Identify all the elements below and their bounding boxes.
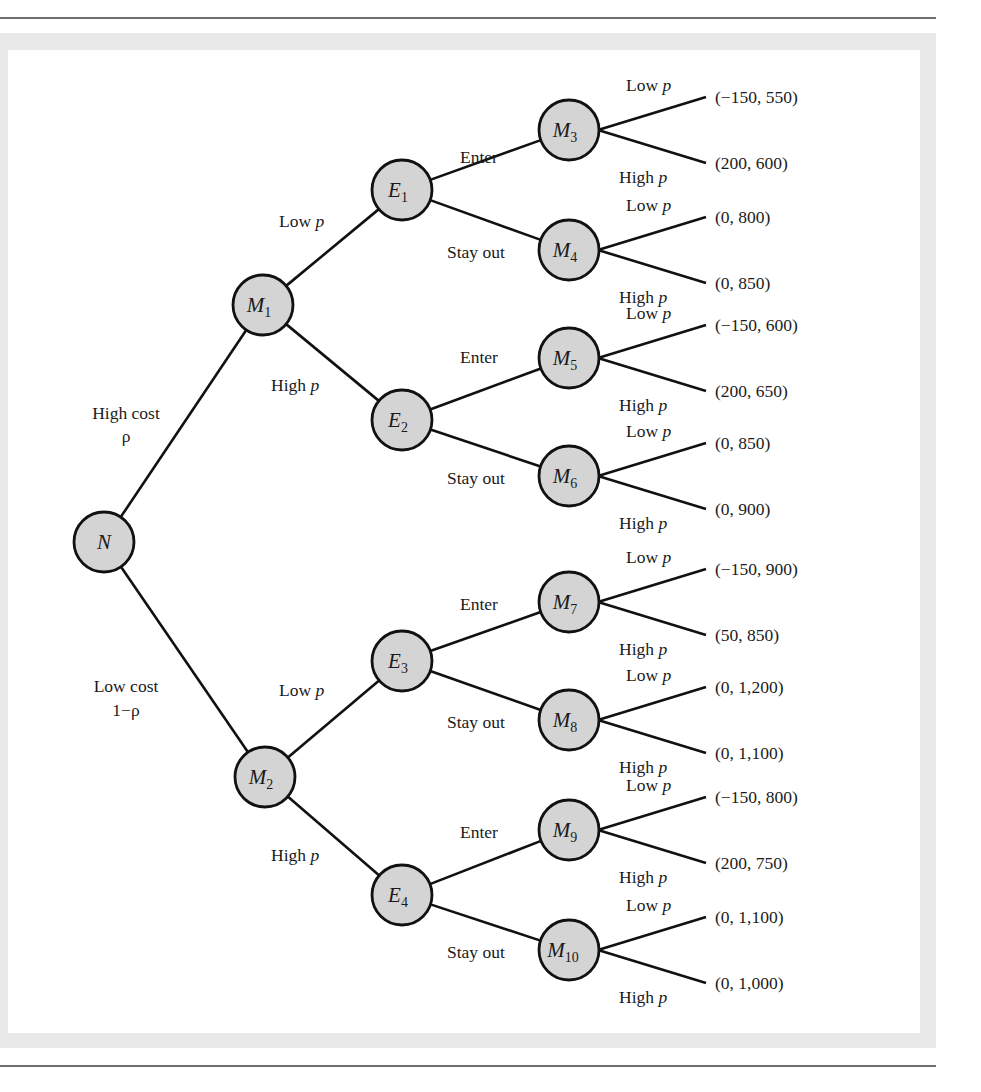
entry-branch-e4-m9: [430, 841, 541, 884]
node-m6: M6: [539, 446, 599, 506]
payoff-low: (0, 1,200): [715, 677, 784, 697]
tree-payoffs: (−150, 550)(200, 600)(0, 800)(0, 850)(−1…: [715, 87, 798, 993]
entry-branch-label: Enter: [460, 594, 498, 614]
node-m8: M8: [539, 690, 599, 750]
terminal-low-price-label: Low p: [626, 421, 671, 441]
node-m10: M10: [539, 920, 599, 980]
terminal-branch-low: [598, 569, 706, 602]
entry-branch-label: Enter: [460, 147, 498, 167]
tree-edges: [121, 97, 706, 983]
node-m4: M4: [539, 220, 599, 280]
terminal-branch-high: [598, 130, 706, 163]
terminal-branch-high: [598, 830, 706, 863]
payoff-high: (50, 850): [715, 625, 779, 645]
node-m5: M5: [539, 328, 599, 388]
nature-branch-label: High cost: [92, 403, 160, 423]
node-e3: E3: [372, 631, 432, 691]
terminal-high-price-label: High p: [619, 167, 667, 187]
entry-branch-e3-m7: [430, 612, 540, 651]
price-branch-label: High p: [271, 845, 319, 865]
payoff-low: (−150, 900): [715, 559, 798, 579]
terminal-branch-high: [598, 250, 706, 283]
game-tree: High costρLow cost1−ρLow pHigh pLow pHig…: [0, 0, 981, 1092]
terminal-branch-high: [598, 602, 706, 635]
node-e2: E2: [372, 390, 432, 450]
terminal-branch-low: [598, 97, 706, 130]
node-m7: M7: [539, 572, 599, 632]
payoff-low: (−150, 800): [715, 787, 798, 807]
nature-branch-probability: ρ: [122, 426, 131, 446]
payoff-low: (−150, 550): [715, 87, 798, 107]
terminal-branch-high: [598, 358, 706, 391]
node-m2: M2: [235, 747, 295, 807]
terminal-high-price-label: High p: [619, 867, 667, 887]
node-e1: E1: [372, 160, 432, 220]
terminal-branch-low: [598, 797, 706, 830]
terminal-high-price-label: High p: [619, 757, 667, 777]
entry-branch-e2-m6: [430, 430, 540, 467]
node-e4: E4: [372, 865, 432, 925]
nature-branch-probability: 1−ρ: [112, 700, 140, 720]
terminal-high-price-label: High p: [619, 639, 667, 659]
node-m9: M9: [539, 800, 599, 860]
payoff-high: (200, 650): [715, 381, 788, 401]
terminal-low-price-label: Low p: [626, 195, 671, 215]
entry-branch-e2-m5: [430, 368, 541, 409]
terminal-branch-low: [598, 217, 706, 250]
node-m1: M1: [233, 275, 293, 335]
node-label: N: [96, 530, 112, 554]
terminal-branch-low: [598, 917, 706, 950]
payoff-high: (0, 850): [715, 273, 771, 293]
nature-branch-label: Low cost: [94, 676, 159, 696]
payoff-low: (−150, 600): [715, 315, 798, 335]
payoff-high: (200, 600): [715, 153, 788, 173]
terminal-high-price-label: High p: [619, 513, 667, 533]
price-branch-label: Low p: [279, 211, 324, 231]
entry-branch-e4-m10: [430, 904, 540, 940]
payoff-low: (0, 850): [715, 433, 771, 453]
payoff-high: (200, 750): [715, 853, 788, 873]
payoff-low: (0, 1,100): [715, 907, 784, 927]
terminal-low-price-label: Low p: [626, 895, 671, 915]
terminal-low-price-label: Low p: [626, 775, 671, 795]
terminal-low-price-label: Low p: [626, 75, 671, 95]
entry-branch-label: Enter: [460, 347, 498, 367]
entry-branch-label: Stay out: [447, 942, 505, 962]
node-n: N: [74, 512, 134, 572]
payoff-high: (0, 1,100): [715, 743, 784, 763]
node-m3: M3: [539, 100, 599, 160]
terminal-branch-high: [598, 950, 706, 983]
nature-branch-m2: [121, 567, 248, 753]
entry-branch-e1-m4: [430, 200, 541, 240]
terminal-high-price-label: High p: [619, 987, 667, 1007]
entry-branch-e3-m8: [430, 671, 540, 710]
terminal-low-price-label: Low p: [626, 547, 671, 567]
tree-edge-labels: High costρLow cost1−ρLow pHigh pLow pHig…: [92, 75, 671, 1007]
payoff-high: (0, 1,000): [715, 973, 784, 993]
terminal-branch-high: [598, 720, 706, 753]
terminal-branch-low: [598, 443, 706, 476]
nature-branch-m1: [121, 330, 247, 517]
payoff-low: (0, 800): [715, 207, 771, 227]
payoff-high: (0, 900): [715, 499, 771, 519]
entry-branch-label: Enter: [460, 822, 498, 842]
price-branch-label: Low p: [279, 680, 324, 700]
terminal-branch-low: [598, 687, 706, 720]
entry-branch-label: Stay out: [447, 468, 505, 488]
terminal-high-price-label: High p: [619, 395, 667, 415]
entry-branch-label: Stay out: [447, 712, 505, 732]
entry-branch-label: Stay out: [447, 242, 505, 262]
price-branch-label: High p: [271, 375, 319, 395]
terminal-low-price-label: Low p: [626, 665, 671, 685]
terminal-branch-low: [598, 325, 706, 358]
terminal-low-price-label: Low p: [626, 303, 671, 323]
terminal-branch-high: [598, 476, 706, 509]
